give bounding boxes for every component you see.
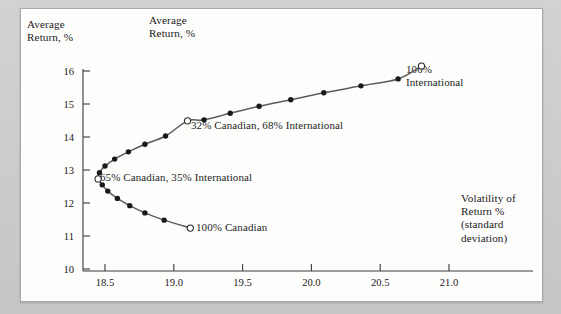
y-tick-label: 11 [64, 231, 74, 242]
data-point-filled [321, 90, 326, 95]
x-tick-label: 21.0 [440, 277, 459, 288]
y-tick-label: 16 [63, 66, 74, 77]
data-point-filled [115, 196, 120, 201]
screenshot-root: Average Return, % Average Return, % Vola… [0, 0, 561, 314]
y-tick-label: 13 [63, 165, 74, 176]
data-point-filled [395, 76, 400, 81]
figure-panel: Average Return, % Average Return, % Vola… [20, 8, 543, 302]
data-point-filled [358, 83, 363, 88]
data-point-open [187, 225, 193, 231]
data-point-filled [97, 170, 102, 175]
y-tick-label: 10 [63, 264, 74, 275]
data-point-filled [100, 182, 105, 187]
data-point-filled [142, 210, 147, 215]
y-tick-label: 15 [63, 99, 74, 110]
data-point-open [418, 63, 424, 69]
data-point-filled [127, 203, 132, 208]
y-tick-label: 12 [63, 198, 74, 209]
data-point-filled [161, 217, 166, 222]
x-tick-label: 20.0 [302, 277, 321, 288]
data-point-open [95, 176, 101, 182]
markers-layer [95, 63, 425, 231]
x-tick-label: 18.5 [96, 277, 115, 288]
frontier-line [98, 66, 422, 228]
curve-layer [98, 66, 422, 228]
data-point-filled [228, 111, 233, 116]
x-tick-label: 20.5 [371, 277, 390, 288]
x-tick-label: 19.0 [165, 277, 184, 288]
data-point-filled [163, 133, 168, 138]
data-point-open [184, 118, 190, 124]
tick-labels-layer: 1011121314151618.519.019.520.020.521.0 [63, 66, 458, 288]
axes-layer [83, 69, 533, 271]
data-point-filled [142, 142, 147, 147]
y-tick-label: 14 [63, 132, 74, 143]
data-point-filled [126, 149, 131, 154]
data-point-filled [102, 163, 107, 168]
data-point-filled [288, 97, 293, 102]
frontier-plot: 1011121314151618.519.019.520.020.521.0 [21, 9, 542, 301]
data-point-filled [112, 156, 117, 161]
data-point-filled [105, 188, 110, 193]
data-point-filled [256, 104, 261, 109]
x-tick-label: 19.5 [233, 277, 252, 288]
data-point-filled [201, 117, 206, 122]
